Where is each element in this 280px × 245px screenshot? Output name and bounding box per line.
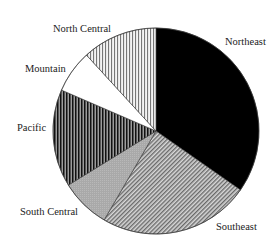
label-northeast: Northeast: [225, 36, 266, 47]
pie-chart: NortheastSoutheastSouth CentralPacificMo…: [0, 0, 280, 245]
label-southeast: Southeast: [216, 221, 257, 232]
label-south-central: South Central: [20, 206, 78, 217]
label-pacific: Pacific: [17, 122, 46, 133]
label-mountain: Mountain: [25, 63, 67, 74]
pie-slices: [53, 28, 259, 234]
label-north-central: North Central: [53, 23, 111, 34]
